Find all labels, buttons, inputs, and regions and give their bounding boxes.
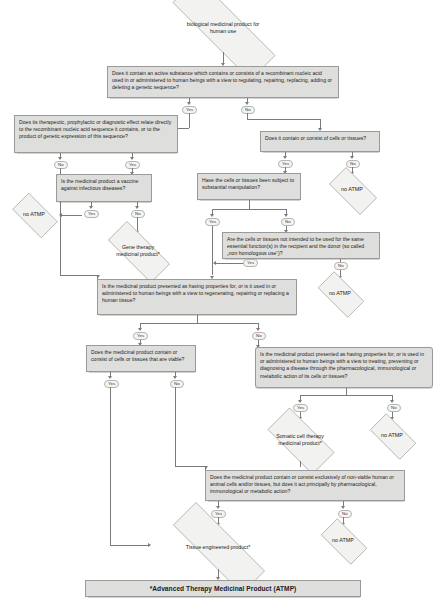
result-no-atmp-4-label: no ATMP: [379, 432, 405, 439]
edge-label-manip-yes: Yes: [205, 218, 220, 226]
edge-effect-no-run: [60, 275, 98, 276]
question-non-homologous-use: Are the cells or tissues not intended to…: [222, 232, 380, 259]
arrowhead-nonviable-yes: [216, 506, 220, 509]
edge-label-recombinant-yes: Yes: [182, 106, 197, 114]
question-viable-cells-or-tissues: Does the medicinal product contain or co…: [86, 345, 196, 372]
arrowhead-cells-no: [350, 156, 354, 159]
edge-viable-yes-run: [110, 545, 150, 546]
question-recombinant-nucleic-acid: Does it contain an active substance whic…: [107, 66, 339, 98]
result-tissue-engineered-label: Tissue engineered product*: [181, 544, 255, 551]
edge-label-cells-no: No: [346, 160, 360, 168]
arrowhead-viable-no: [173, 376, 177, 379]
result-no-atmp-3-label: no ATMP: [327, 290, 353, 297]
question-effect-relates-to-sequence: Does its therapeutic, prophylactic or di…: [14, 115, 178, 153]
atmp-classification-flowchart: biological medicinal product for human u…: [0, 0, 446, 613]
edge-regen-split: [140, 323, 259, 324]
arrowhead-recombinant-yes: [187, 102, 191, 105]
edge-label-manip-no: No: [281, 218, 295, 226]
arrowhead-pharm-no: [390, 400, 394, 403]
arrowhead-regen-yes: [138, 328, 142, 331]
arrowhead-effect-yes: [130, 157, 134, 160]
result-gene-therapy-medicinal-product: Gene therapy medicinal product*: [96, 233, 180, 269]
arrowhead-nonviable-no: [341, 506, 345, 509]
edge-label-viable-yes: Yes: [104, 380, 119, 388]
result-no-atmp-2: no ATMP: [322, 174, 382, 206]
edge-label-recombinant-no: No: [241, 106, 255, 114]
edge-label-nonhom-yes: Yes: [243, 259, 258, 267]
edge-label-effect-yes: Yes: [125, 161, 140, 169]
result-no-atmp-2-label: no ATMP: [339, 186, 365, 193]
edge-label-pharm-no: No: [387, 404, 401, 412]
question-regenerating-repairing-replacing: Is the medicinal product presented as ha…: [97, 279, 297, 315]
arrowhead-manip-no: [284, 214, 288, 217]
arrowhead-effect-no: [58, 157, 62, 160]
edge-label-regen-no: No: [252, 332, 266, 340]
edge-label-vaccine-yes: Yes: [84, 210, 99, 218]
result-gene-therapy-label: Gene therapy medicinal product*: [110, 244, 166, 258]
question-pharmacological-action: Is the medicinal product presented as ha…: [255, 347, 433, 388]
result-no-atmp-5-label: no ATMP: [330, 537, 356, 544]
edge-label-vaccine-no: No: [131, 210, 145, 218]
edge-label-regen-yes: Yes: [133, 332, 148, 340]
edge-recombinant-no-run: [247, 119, 321, 120]
result-no-atmp-4: no ATMP: [363, 420, 421, 451]
arrowhead-cells-yes: [283, 156, 287, 159]
arrowhead-recombinant-no: [245, 102, 249, 105]
edge-label-nonviable-no: No: [338, 510, 352, 518]
result-somatic-label: Somatic cell therapy medicinal product*: [271, 433, 329, 447]
edge-recombinant-yes-drop: [189, 113, 190, 128]
arrowhead-vaccine-no: [135, 206, 139, 209]
arrowhead-viable-yes: [108, 376, 112, 379]
edge-label-viable-no: No: [170, 380, 184, 388]
footer-atmp-legend: *Advanced Therapy Medicinal Product (ATM…: [85, 580, 361, 597]
question-contains-cells-or-tissues: Does it contain or consist of cells or t…: [260, 131, 380, 152]
edge-recombinant-yes-run: [178, 128, 189, 129]
arrowhead-pharm-yes: [298, 400, 302, 403]
edge-label-nonviable-yes: Yes: [211, 510, 226, 518]
edge-vaccine-yes-run: [62, 215, 82, 216]
edge-label-nonhom-no: No: [334, 262, 348, 270]
arrowhead-manip-yes: [210, 214, 214, 217]
result-somatic-cell-therapy: Somatic cell therapy medicinal product*: [256, 419, 344, 461]
edge-viable-no-run: [175, 466, 206, 467]
question-vaccine-infectious-diseases: Is the medicinal product a vaccine again…: [56, 174, 152, 202]
question-non-viable-cells-pharmacological: Does the medicinal product contain or co…: [205, 470, 405, 501]
result-no-atmp-1-label: no ATMP: [21, 211, 47, 218]
edge-label-cells-yes: Yes: [278, 160, 293, 168]
edge-label-effect-no: No: [54, 161, 68, 169]
arrowhead-nonhom-yes-merge: [213, 261, 216, 265]
edge-manip-split: [212, 209, 287, 210]
edge-viable-yes-long-drop: [110, 387, 111, 545]
result-no-atmp-1: no ATMP: [6, 199, 62, 230]
result-no-atmp-3: no ATMP: [311, 278, 369, 309]
start-node: biological medicinal product for human u…: [146, 4, 300, 52]
result-tissue-engineered-product: Tissue engineered product*: [150, 525, 286, 569]
result-no-atmp-5: no ATMP: [314, 525, 372, 556]
edge-pharm-split: [300, 395, 393, 396]
arrowhead-vaccine-yes: [89, 206, 93, 209]
arrowhead-regen-no: [256, 328, 260, 331]
question-substantial-manipulation: Have the cells or tissues been subject t…: [197, 173, 301, 200]
start-node-label: biological medicinal product for human u…: [178, 21, 268, 35]
edge-somatic-to-footer-drop: [300, 461, 301, 467]
edge-label-pharm-yes: Yes: [293, 404, 308, 412]
edge-manip-yes-long-drop: [212, 226, 213, 275]
edge-viable-no-long-drop: [175, 387, 176, 466]
